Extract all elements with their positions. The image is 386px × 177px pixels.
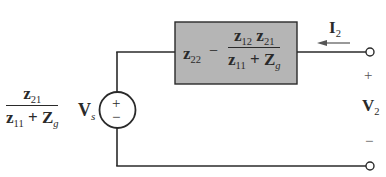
output-voltage-label: V2 <box>362 97 380 114</box>
source-voltage-label: Vs <box>78 101 95 119</box>
box-fraction: z12 z21 z11 + Zg <box>228 27 280 68</box>
source-coefficient: z21 z11 + Zg <box>6 85 58 126</box>
output-plus-sign: + <box>364 68 372 83</box>
source-coefficient-denominator: z11 + Zg <box>6 109 58 126</box>
current-arrow-head-icon <box>317 40 327 46</box>
box-minus-sign: − <box>209 43 218 59</box>
source-coefficient-numerator: z21 <box>23 85 41 102</box>
fraction-bar <box>228 47 280 48</box>
source-minus-sign: − <box>112 110 120 125</box>
box-fraction-denominator: z11 + Zg <box>228 51 280 68</box>
output-minus-sign: − <box>365 134 373 149</box>
current-label: I2 <box>329 19 341 36</box>
fraction-bar <box>6 105 58 106</box>
box-term-z22: z22 <box>183 45 201 62</box>
output-terminal-bottom <box>366 162 374 170</box>
output-terminal-top <box>366 48 374 56</box>
box-fraction-numerator: z12 z21 <box>234 27 274 44</box>
